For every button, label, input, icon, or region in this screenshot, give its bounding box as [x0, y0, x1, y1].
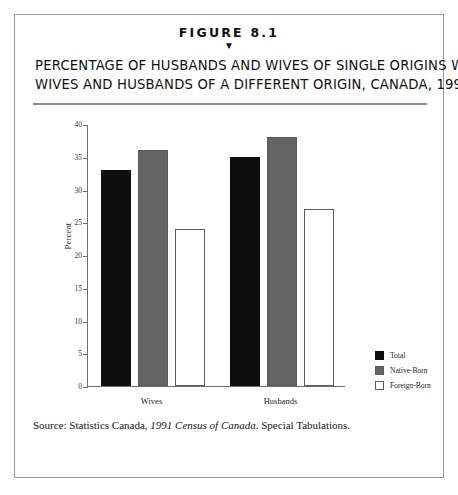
- y-axis-tick-label: 20: [58, 252, 82, 260]
- legend-item-foreign-born: Foreign-Born: [375, 381, 431, 390]
- y-axis-tick-label: 15: [58, 285, 82, 293]
- legend-label: Total: [390, 351, 405, 360]
- figure-title-line-2: WIVES AND HUSBANDS OF A DIFFERENT ORIGIN…: [35, 75, 425, 94]
- y-axis-tick-label: 0: [58, 383, 82, 391]
- legend-swatch-icon: [375, 366, 384, 375]
- y-axis-tick-label: 5: [58, 350, 82, 358]
- y-axis-tick-label: 25: [58, 219, 82, 227]
- source-prefix: Source: Statistics Canada,: [33, 419, 150, 431]
- legend-swatch-icon: [375, 381, 384, 390]
- bar-wives-foreign-born: [175, 229, 205, 386]
- chart-legend: TotalNative-BornForeign-Born: [375, 351, 431, 396]
- y-axis-tick-label: 35: [58, 154, 82, 162]
- source-title-italic: 1991 Census of Canada: [150, 419, 255, 431]
- legend-item-total: Total: [375, 351, 431, 360]
- bars-layer: [88, 125, 345, 386]
- chart-container: Percent 0510152025303540 WivesHusbands T…: [41, 119, 423, 409]
- x-axis-label-wives: Wives: [141, 396, 162, 406]
- down-triangle-icon: ▼: [15, 41, 443, 50]
- source-note: Source: Statistics Canada, 1991 Census o…: [33, 419, 350, 431]
- title-divider: [33, 103, 427, 105]
- legend-swatch-icon: [375, 351, 384, 360]
- bar-husbands-native-born: [267, 137, 297, 386]
- x-axis-label-husbands: Husbands: [264, 396, 298, 406]
- plot-area: 0510152025303540: [87, 125, 345, 387]
- legend-label: Foreign-Born: [390, 381, 431, 390]
- y-axis-title: Percent: [63, 201, 73, 271]
- legend-label: Native-Born: [390, 366, 428, 375]
- y-axis-tick-label: 10: [58, 318, 82, 326]
- figure-title-line-1: PERCENTAGE OF HUSBANDS AND WIVES OF SING…: [35, 56, 425, 75]
- y-axis-tick-mark: [83, 387, 88, 388]
- bar-husbands-total: [230, 157, 260, 386]
- figure-number: FIGURE 8.1: [15, 25, 443, 40]
- bar-wives-total: [101, 170, 131, 386]
- y-axis-tick-label: 30: [58, 187, 82, 195]
- bar-husbands-foreign-born: [304, 209, 334, 386]
- source-suffix: . Special Tabulations.: [256, 419, 350, 431]
- figure-header: FIGURE 8.1 ▼: [15, 25, 443, 50]
- legend-item-native-born: Native-Born: [375, 366, 431, 375]
- bar-wives-native-born: [138, 150, 168, 386]
- y-axis-tick-label: 40: [58, 121, 82, 129]
- figure-frame: FIGURE 8.1 ▼ PERCENTAGE OF HUSBANDS AND …: [14, 14, 444, 478]
- figure-title: PERCENTAGE OF HUSBANDS AND WIVES OF SING…: [35, 56, 425, 94]
